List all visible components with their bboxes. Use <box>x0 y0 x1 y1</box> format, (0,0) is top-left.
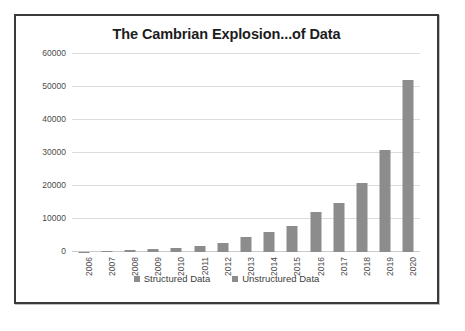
bar-slot: 2009 <box>142 54 165 252</box>
y-axis-tick-label: 50000 <box>42 81 66 91</box>
legend-swatch-icon <box>134 276 140 282</box>
bar <box>240 237 251 252</box>
bar <box>356 183 367 252</box>
legend-label: Unstructured Data <box>242 273 319 284</box>
y-axis-tick-label: 0 <box>61 246 66 256</box>
bar-slot: 2008 <box>118 54 141 252</box>
legend-label: Structured Data <box>144 273 211 284</box>
legend-swatch-icon <box>232 276 238 282</box>
bar <box>217 243 228 252</box>
bar-slot: 2013 <box>234 54 257 252</box>
bar <box>148 249 159 252</box>
bar-slot: 2011 <box>188 54 211 252</box>
bar-slot: 2014 <box>258 54 281 252</box>
bar-slot: 2016 <box>304 54 327 252</box>
bar-slot: 2010 <box>165 54 188 252</box>
bar <box>124 250 135 252</box>
bar <box>287 226 298 252</box>
bar <box>101 251 112 252</box>
bar-slot: 2019 <box>374 54 397 252</box>
bar <box>194 246 205 252</box>
bar <box>380 150 391 252</box>
chart-panel: The Cambrian Explosion...of Data Exabyte… <box>14 14 439 304</box>
bar <box>403 80 414 252</box>
plot-area: 0100002000030000400005000060000 20062007… <box>72 54 420 252</box>
legend-item: Unstructured Data <box>232 273 319 284</box>
bar <box>171 248 182 252</box>
y-axis-tick-label: 10000 <box>42 213 66 223</box>
y-axis-tick-label: 40000 <box>42 114 66 124</box>
y-axis-tick-label: 60000 <box>42 48 66 58</box>
bar-slot: 2012 <box>211 54 234 252</box>
y-axis-tick-label: 20000 <box>42 180 66 190</box>
y-axis-tick-label: 30000 <box>42 147 66 157</box>
bar <box>264 232 275 252</box>
legend-item: Structured Data <box>134 273 211 284</box>
bar-series: 2006200720082009201020112012201320142015… <box>72 54 420 252</box>
bar-slot: 2020 <box>397 54 420 252</box>
bar-slot: 2018 <box>350 54 373 252</box>
chart-title: The Cambrian Explosion...of Data <box>16 26 437 42</box>
bar <box>333 203 344 253</box>
bar-slot: 2017 <box>327 54 350 252</box>
bar-slot: 2015 <box>281 54 304 252</box>
bar-slot: 2006 <box>72 54 95 252</box>
bar <box>310 212 321 252</box>
screenshot-root: The Cambrian Explosion...of Data Exabyte… <box>0 0 465 331</box>
bar-slot: 2007 <box>95 54 118 252</box>
chart-legend: Structured DataUnstructured Data <box>16 273 437 284</box>
